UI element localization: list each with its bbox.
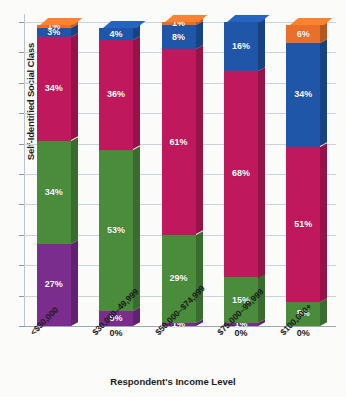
bar-segment-value: 8% bbox=[172, 33, 185, 42]
x-axis-tick-labels: <$30,000$30,000–49,999$50,000–$74,999$75… bbox=[24, 330, 336, 380]
bar-segment-side-face bbox=[196, 46, 203, 235]
bar-column[interactable]: 1%15%68%16%0% bbox=[224, 14, 262, 326]
x-axis-title: Respondent's Income Level bbox=[0, 376, 346, 387]
plot-area: 27%34%34%3%1%5%53%36%4%0%1%29%61%8%1%1%1… bbox=[24, 14, 336, 326]
bar-segment-side-face bbox=[71, 137, 78, 244]
bar-segment[interactable]: 4% bbox=[99, 28, 133, 40]
bar-column[interactable]: 27%34%34%3%1% bbox=[37, 14, 75, 326]
bar-segment-value: 4% bbox=[110, 30, 123, 39]
bar-segment-value: 34% bbox=[45, 84, 63, 93]
bar-segment-value: 29% bbox=[169, 274, 187, 283]
bar-segment-value: 34% bbox=[45, 188, 63, 197]
bar-segment[interactable]: 34% bbox=[286, 43, 320, 146]
bar-segment[interactable]: 61% bbox=[162, 49, 196, 234]
bar-stack: 27%34%34%3%1% bbox=[37, 14, 71, 326]
bar-group: 27%34%34%3%1%5%53%36%4%0%1%29%61%8%1%1%1… bbox=[24, 14, 336, 326]
bar-segment-value: 34% bbox=[294, 90, 312, 99]
bar-segment-side-face bbox=[258, 67, 265, 277]
bar-segment-value: 36% bbox=[107, 90, 125, 99]
bar-segment-value: 51% bbox=[294, 220, 312, 229]
bar-segment-value: 68% bbox=[232, 169, 250, 178]
bar-segment-value: 61% bbox=[169, 138, 187, 147]
bar-segment-side-face bbox=[320, 40, 327, 147]
bar-segment-side-face bbox=[71, 240, 78, 326]
bar-segment[interactable]: 34% bbox=[37, 141, 71, 244]
bar-segment-value: 6% bbox=[297, 30, 310, 39]
bar-stack: 1%29%61%8%1% bbox=[162, 14, 196, 326]
bar-segment[interactable]: 51% bbox=[286, 147, 320, 302]
bar-segment[interactable]: 68% bbox=[224, 71, 258, 278]
chart-root: Self-Identified Social Class 27%34%34%3%… bbox=[0, 0, 346, 397]
bar-column[interactable]: 5%53%36%4%0% bbox=[99, 14, 137, 326]
bar-segment-side-face bbox=[320, 143, 327, 302]
bar-segment-value: 16% bbox=[232, 42, 250, 51]
bar-segment[interactable]: 8% bbox=[162, 25, 196, 49]
bar-segment[interactable]: 34% bbox=[37, 37, 71, 140]
bar-segment-side-face bbox=[320, 298, 327, 326]
bar-segment-side-face bbox=[133, 146, 140, 311]
bar-segment-value: 27% bbox=[45, 280, 63, 289]
bar-column[interactable]: 0%8%51%34%6% bbox=[286, 14, 324, 326]
bar-stack: 5%53%36%4%0% bbox=[99, 14, 133, 326]
bar-segment-side-face bbox=[196, 231, 203, 323]
bar-stack: 0%8%51%34%6% bbox=[286, 14, 320, 326]
bar-segment[interactable]: 53% bbox=[99, 150, 133, 311]
bar-stack: 1%15%68%16%0% bbox=[224, 14, 258, 326]
bar-segment[interactable]: 6% bbox=[286, 25, 320, 43]
bar-segment[interactable]: 16% bbox=[224, 22, 258, 71]
bar-segment-value: 53% bbox=[107, 226, 125, 235]
bar-segment[interactable]: 36% bbox=[99, 40, 133, 149]
bar-segment-side-face bbox=[71, 33, 78, 140]
y-axis-tick bbox=[19, 326, 24, 327]
bar-segment-side-face bbox=[258, 18, 265, 70]
bar-column[interactable]: 1%29%61%8%1% bbox=[162, 14, 200, 326]
bar-segment-side-face bbox=[133, 37, 140, 150]
